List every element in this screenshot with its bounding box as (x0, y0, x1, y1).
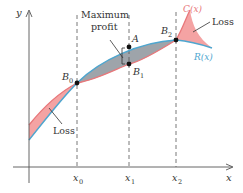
point-a (127, 45, 132, 50)
tick-label-x0: x 0 (73, 172, 83, 186)
point-b1 (127, 62, 132, 67)
loss-right-pointer (193, 22, 210, 32)
svg-text:2: 2 (178, 178, 182, 186)
max-profit-label-2: profit (91, 21, 118, 32)
svg-text:B: B (132, 66, 140, 77)
loss-right-label: Loss (212, 16, 234, 27)
svg-text:2: 2 (168, 31, 172, 39)
svg-text:1: 1 (140, 72, 144, 80)
svg-text:A: A (131, 33, 139, 44)
svg-text:1: 1 (131, 178, 135, 186)
point-b2 (174, 38, 179, 43)
label-a: A (131, 33, 139, 44)
label-b0: B 0 (61, 71, 73, 85)
loss-left-pointer (49, 108, 62, 124)
svg-text:B: B (160, 25, 168, 36)
svg-text:0: 0 (69, 77, 73, 85)
y-axis-label: y (15, 7, 22, 18)
profit-loss-diagram: y x Maximum profit Loss Loss C(x) R(x) B… (0, 0, 243, 193)
point-b0 (75, 81, 80, 86)
max-profit-label-1: Maximum (81, 9, 129, 20)
cost-curve-label: C(x) (183, 4, 202, 14)
loss-left-label: Loss (53, 125, 75, 136)
label-b1: B 1 (132, 66, 144, 80)
tick-label-x2: x 2 (172, 172, 182, 186)
profit-region (77, 40, 176, 83)
label-b2: B 2 (160, 25, 172, 39)
tick-label-x1: x 1 (125, 172, 135, 186)
revenue-curve-label: R(x) (193, 52, 213, 62)
x-axis-label: x (226, 172, 232, 183)
svg-text:B: B (61, 71, 69, 82)
svg-text:0: 0 (79, 178, 83, 186)
